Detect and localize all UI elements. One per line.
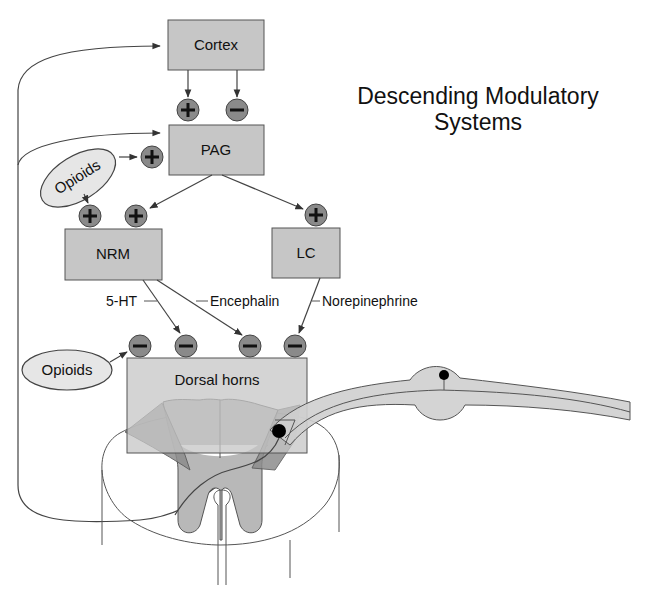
norepinephrine-label: Norepinephrine xyxy=(322,293,418,309)
pag-label: PAG xyxy=(201,141,232,158)
minus-sign-icon xyxy=(284,335,306,357)
minus-sign-icon xyxy=(226,99,248,121)
opioids-to-dorsal-horns-arrow xyxy=(110,352,127,362)
opioids-lower-label: Opioids xyxy=(42,361,93,378)
drg-cell-body xyxy=(439,370,449,380)
lc-norepinephrine-arrow xyxy=(299,278,320,333)
plus-sign-icon xyxy=(79,205,101,227)
plus-sign-icon xyxy=(177,99,199,121)
plus-sign-icon xyxy=(141,146,163,168)
afferent-terminal xyxy=(272,424,286,438)
opioids-upper-ellipse: Opioids xyxy=(31,137,126,219)
dorsal-horns-label: Dorsal horns xyxy=(174,371,259,388)
minus-sign-icon xyxy=(175,335,197,357)
plus-sign-icon xyxy=(125,205,147,227)
plus-sign-icon xyxy=(305,204,327,226)
serotonin-label: 5-HT xyxy=(106,293,138,309)
pag-to-lc-arrow xyxy=(222,175,303,209)
opioids-lower-ellipse: Opioids xyxy=(22,350,112,390)
minus-sign-icon xyxy=(129,335,151,357)
encephalin-label: Encephalin xyxy=(210,293,279,309)
minus-sign-icon xyxy=(239,335,261,357)
lc-label: LC xyxy=(296,244,315,261)
nrm-label: NRM xyxy=(96,245,130,262)
cortex-label: Cortex xyxy=(194,36,239,53)
diagram-title-line1: Descending Modulatory xyxy=(357,83,599,109)
diagram-title-line2: Systems xyxy=(434,109,522,135)
nrm-5ht-arrow xyxy=(143,280,180,333)
descending-modulatory-diagram: Descending Modulatory Systems Dorsal hor… xyxy=(0,0,647,600)
pag-to-nrm-arrow xyxy=(150,175,212,208)
